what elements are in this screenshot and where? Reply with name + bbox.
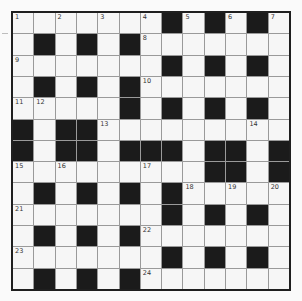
grid-cell[interactable]: 4 [141,13,161,33]
grid-cell[interactable] [34,13,54,33]
grid-cell[interactable] [141,247,161,267]
grid-cell[interactable] [56,269,76,289]
grid-cell[interactable]: 23 [13,247,33,267]
grid-cell[interactable] [120,13,140,33]
grid-cell[interactable] [13,77,33,97]
grid-cell[interactable] [120,56,140,76]
grid-cell[interactable] [247,162,267,182]
grid-cell[interactable] [247,77,267,97]
grid-cell[interactable]: 5 [183,13,203,33]
grid-cell[interactable] [98,56,118,76]
grid-cell[interactable]: 16 [56,162,76,182]
grid-cell[interactable] [77,162,97,182]
grid-cell[interactable] [183,120,203,140]
grid-cell[interactable] [34,205,54,225]
grid-cell[interactable]: 15 [13,162,33,182]
grid-cell[interactable] [56,183,76,203]
grid-cell[interactable] [247,183,267,203]
grid-cell[interactable] [269,269,289,289]
grid-cell[interactable] [183,205,203,225]
grid-cell[interactable] [98,77,118,97]
grid-cell[interactable] [98,183,118,203]
grid-cell[interactable] [120,120,140,140]
grid-cell[interactable] [162,226,182,246]
grid-cell[interactable] [269,34,289,54]
grid-cell[interactable] [77,98,97,118]
grid-cell[interactable] [77,13,97,33]
grid-cell[interactable]: 20 [269,183,289,203]
grid-cell[interactable] [183,34,203,54]
grid-cell[interactable]: 19 [226,183,246,203]
grid-cell[interactable] [77,205,97,225]
grid-cell[interactable] [162,77,182,97]
grid-cell[interactable]: 11 [13,98,33,118]
grid-cell[interactable] [226,247,246,267]
grid-cell[interactable] [98,247,118,267]
grid-cell[interactable] [13,183,33,203]
grid-cell[interactable] [98,98,118,118]
grid-cell[interactable]: 7 [269,13,289,33]
grid-cell[interactable] [98,162,118,182]
grid-cell[interactable] [183,98,203,118]
grid-cell[interactable] [226,98,246,118]
grid-cell[interactable] [247,226,267,246]
grid-cell[interactable] [77,247,97,267]
grid-cell[interactable] [120,162,140,182]
grid-cell[interactable] [34,162,54,182]
grid-cell[interactable] [247,34,267,54]
grid-cell[interactable] [247,141,267,161]
grid-cell[interactable] [269,56,289,76]
grid-cell[interactable]: 9 [13,56,33,76]
grid-cell[interactable] [162,162,182,182]
grid-cell[interactable] [98,141,118,161]
grid-cell[interactable] [183,247,203,267]
grid-cell[interactable] [98,226,118,246]
grid-cell[interactable] [183,269,203,289]
grid-cell[interactable] [226,56,246,76]
grid-cell[interactable] [162,34,182,54]
grid-cell[interactable] [98,205,118,225]
grid-cell[interactable]: 18 [183,183,203,203]
grid-cell[interactable] [269,77,289,97]
grid-cell[interactable] [56,226,76,246]
grid-cell[interactable] [141,183,161,203]
grid-cell[interactable]: 12 [34,98,54,118]
grid-cell[interactable] [269,98,289,118]
grid-cell[interactable] [56,98,76,118]
grid-cell[interactable] [56,56,76,76]
grid-cell[interactable] [34,120,54,140]
grid-cell[interactable] [183,162,203,182]
grid-cell[interactable]: 8 [141,34,161,54]
grid-cell[interactable] [120,205,140,225]
grid-cell[interactable] [269,205,289,225]
grid-cell[interactable] [98,269,118,289]
grid-cell[interactable]: 6 [226,13,246,33]
grid-cell[interactable]: 2 [56,13,76,33]
grid-cell[interactable]: 10 [141,77,161,97]
grid-cell[interactable] [13,34,33,54]
grid-cell[interactable] [226,77,246,97]
grid-cell[interactable]: 1 [13,13,33,33]
grid-cell[interactable] [269,120,289,140]
grid-cell[interactable] [34,141,54,161]
grid-cell[interactable] [183,141,203,161]
grid-cell[interactable] [183,56,203,76]
grid-cell[interactable] [183,226,203,246]
grid-cell[interactable] [13,269,33,289]
grid-cell[interactable] [98,34,118,54]
grid-cell[interactable] [205,120,225,140]
grid-cell[interactable] [269,226,289,246]
grid-cell[interactable] [120,247,140,267]
grid-cell[interactable]: 21 [13,205,33,225]
grid-cell[interactable] [13,226,33,246]
grid-cell[interactable] [77,56,97,76]
grid-cell[interactable] [205,226,225,246]
grid-cell[interactable] [141,56,161,76]
grid-cell[interactable] [205,269,225,289]
grid-cell[interactable] [183,77,203,97]
grid-cell[interactable] [226,226,246,246]
grid-cell[interactable] [56,247,76,267]
grid-cell[interactable]: 14 [247,120,267,140]
grid-cell[interactable] [141,205,161,225]
grid-cell[interactable] [205,34,225,54]
